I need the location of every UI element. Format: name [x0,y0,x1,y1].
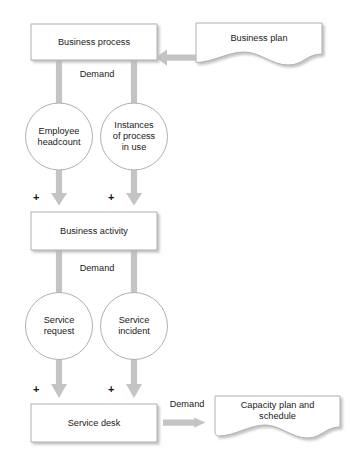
node-business-process-shape[interactable] [31,24,157,60]
arrow-incident-to-desk [126,356,142,398]
node-service-incident-shape[interactable] [101,293,168,360]
arrow-headcount-to-activity [51,165,67,206]
arrow-activity-to-request [56,250,62,298]
node-service-desk-shape[interactable] [31,404,157,442]
arrow-request-to-desk [51,356,67,398]
operator-plus-activity-left: + [33,192,39,203]
operator-plus-activity-right: + [108,192,114,203]
edge-label-demand-top: Demand [68,70,126,79]
arrow-process-to-instances [131,60,137,108]
node-capacity-plan-shape[interactable] [215,396,340,438]
arrow-activity-to-incident [131,250,137,298]
node-employee-headcount-shape[interactable] [26,103,93,170]
operator-plus-desk-right: + [108,384,114,395]
operator-plus-desk-left: + [33,384,39,395]
flow-diagram: Business process Business plan Employee … [0,0,350,464]
edge-label-demand-bottom: Demand [161,400,213,409]
node-layer [26,23,341,442]
node-service-request-shape[interactable] [26,293,93,360]
node-instances-of-process-shape[interactable] [101,103,168,170]
node-business-activity-shape[interactable] [31,212,157,250]
edge-label-demand-middle: Demand [68,264,126,273]
diagram-canvas [0,0,350,464]
node-business-plan-shape[interactable] [196,23,322,65]
arrow-process-to-headcount [56,60,62,108]
arrow-plan-to-process [156,50,197,66]
arrow-instances-to-activity [126,165,142,206]
arrow-desk-to-capacity-plan [163,418,206,428]
